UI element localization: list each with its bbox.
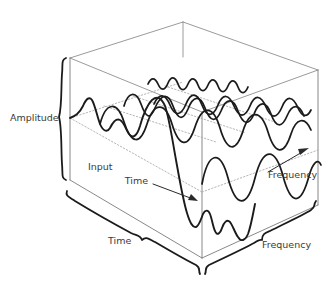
time-arrow <box>153 184 198 201</box>
box-edge-top-front <box>70 58 202 112</box>
amplitude-brace <box>59 58 66 180</box>
box-wireframe <box>70 22 318 258</box>
wave-component-4 <box>148 78 248 93</box>
label-amplitude: Amplitude <box>10 112 59 123</box>
wave-path-component-2 <box>124 94 304 124</box>
frequency-brace <box>205 201 316 274</box>
box-edge-top-left <box>70 22 183 58</box>
label-frequency-bottom: Frequency <box>262 239 311 250</box>
label-time-bottom: Time <box>107 235 131 246</box>
wave-component-2 <box>124 94 304 124</box>
wave-path-component-4 <box>148 78 248 93</box>
wave-path-component-3 <box>154 95 311 116</box>
amplitude-brace-path <box>59 58 66 180</box>
diagram-svg: Amplitude Input Time Frequency Time Freq… <box>0 0 326 286</box>
frequency-brace-path <box>205 201 316 274</box>
time-arrow-line <box>153 184 193 199</box>
label-frequency-inner: Frequency <box>268 169 317 180</box>
figure-root: Amplitude Input Time Frequency Time Freq… <box>0 0 326 286</box>
box-edge-top-back <box>183 22 318 70</box>
label-time-inner: Time <box>124 175 148 186</box>
time-arrow-head <box>188 194 198 201</box>
baseline-component-2 <box>104 106 216 142</box>
wave-component-3 <box>154 95 311 116</box>
time-brace-path <box>66 191 200 274</box>
time-brace <box>66 191 200 274</box>
label-input: Input <box>88 161 113 172</box>
